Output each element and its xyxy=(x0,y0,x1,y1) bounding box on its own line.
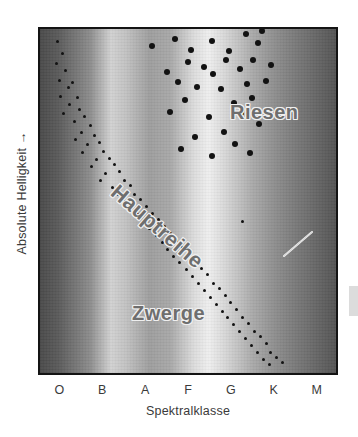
star-point xyxy=(281,361,284,364)
star-point xyxy=(244,81,250,87)
star-point xyxy=(118,170,121,173)
star-point xyxy=(241,220,244,223)
star-point xyxy=(212,282,215,285)
star-point xyxy=(203,289,206,292)
star-point xyxy=(67,86,70,89)
star-point xyxy=(249,95,255,101)
star-point xyxy=(209,38,215,44)
star-point xyxy=(218,287,221,290)
star-point xyxy=(224,294,227,297)
x-tick-m: M xyxy=(295,383,338,401)
star-point xyxy=(98,141,101,144)
star-point xyxy=(78,108,81,111)
star-point xyxy=(188,47,194,53)
star-point xyxy=(90,165,93,168)
region-label-giants: Riesen xyxy=(230,101,299,124)
star-point xyxy=(218,86,224,92)
star-point xyxy=(259,28,265,34)
star-point xyxy=(149,43,155,49)
star-point xyxy=(238,330,241,333)
y-axis-label: Absolute Helligkeit → xyxy=(15,63,29,323)
star-point xyxy=(89,124,92,127)
star-point xyxy=(209,296,212,299)
star-point xyxy=(263,78,269,84)
star-point xyxy=(102,150,105,153)
star-point xyxy=(201,64,207,70)
x-tick-b: B xyxy=(81,383,124,401)
star-point xyxy=(255,40,261,46)
star-point xyxy=(247,150,253,156)
x-tick-g: G xyxy=(209,383,252,401)
star-point xyxy=(86,143,89,146)
x-axis-tick-labels: OBAFGKM xyxy=(38,383,338,401)
star-point xyxy=(164,69,170,75)
star-point xyxy=(172,36,178,42)
star-point xyxy=(243,31,249,37)
star-point xyxy=(80,131,83,134)
star-point xyxy=(59,95,62,98)
star-point xyxy=(200,267,203,270)
star-point xyxy=(71,81,74,84)
star-point xyxy=(229,301,232,304)
star-point xyxy=(64,69,67,72)
star-point xyxy=(206,114,212,120)
star-point xyxy=(247,322,250,325)
star-point xyxy=(275,356,278,359)
star-point xyxy=(262,358,265,361)
star-point xyxy=(113,163,116,166)
star-point xyxy=(167,109,173,115)
star-point xyxy=(223,57,229,63)
star-point xyxy=(226,316,229,319)
x-tick-a: A xyxy=(124,383,167,401)
star-point xyxy=(197,282,200,285)
star-point xyxy=(192,134,198,140)
star-point xyxy=(244,337,247,340)
star-point xyxy=(83,115,86,118)
star-point xyxy=(93,134,96,137)
star-point xyxy=(95,158,98,161)
star-point xyxy=(56,40,59,43)
x-tick-f: F xyxy=(167,383,210,401)
star-point xyxy=(265,342,268,345)
star-point xyxy=(232,141,238,147)
star-point xyxy=(221,129,227,135)
star-point xyxy=(185,59,191,65)
star-point xyxy=(175,79,181,85)
star-point xyxy=(55,62,58,65)
star-point xyxy=(210,71,216,77)
region-label-dwarfs: Zwerge xyxy=(132,302,205,325)
star-point xyxy=(226,48,232,54)
x-tick-k: K xyxy=(252,383,295,401)
star-point xyxy=(68,103,71,106)
star-point xyxy=(209,153,215,159)
page-edge-artifact xyxy=(349,286,358,316)
star-point xyxy=(182,97,188,103)
star-point xyxy=(206,273,209,276)
plot-area: Riesen Hauptreihe Zwerge Sonne xyxy=(38,27,338,375)
star-point xyxy=(256,351,259,354)
star-point xyxy=(73,120,76,123)
star-point xyxy=(250,344,253,347)
star-point xyxy=(259,335,262,338)
star-point xyxy=(221,310,224,313)
star-point xyxy=(232,323,235,326)
star-point xyxy=(215,303,218,306)
star-point xyxy=(104,172,107,175)
star-point xyxy=(253,330,256,333)
star-point xyxy=(62,112,65,115)
star-point xyxy=(268,62,274,68)
star-point xyxy=(269,351,272,354)
star-point xyxy=(61,52,64,55)
star-point xyxy=(74,138,77,141)
star-point xyxy=(237,66,243,72)
star-point xyxy=(81,151,84,154)
star-point xyxy=(194,84,200,90)
star-point xyxy=(241,316,244,319)
star-point xyxy=(108,157,111,160)
star-point xyxy=(58,79,61,82)
star-point xyxy=(76,96,79,99)
x-tick-o: O xyxy=(38,383,81,401)
hr-diagram-figure: Absolute Helligkeit → Riesen Hauptreihe … xyxy=(0,0,358,437)
star-point xyxy=(191,275,194,278)
star-point xyxy=(178,146,184,152)
